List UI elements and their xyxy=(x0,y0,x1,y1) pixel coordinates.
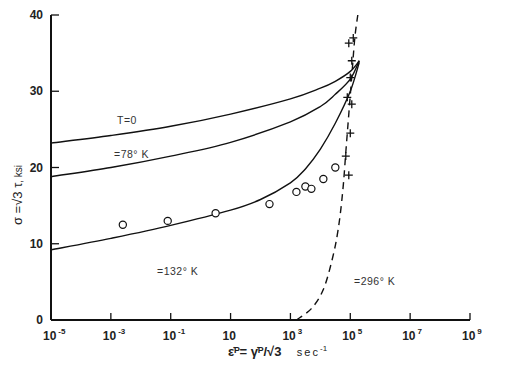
curves xyxy=(51,15,359,320)
x-tick-label: 10-3 xyxy=(103,327,126,343)
plus-marker xyxy=(348,100,356,108)
x-tick-label: 107 xyxy=(402,327,422,343)
y-tick-label: 30 xyxy=(30,84,44,98)
x-tick-label: 10-5 xyxy=(43,327,66,343)
y-tick-label: 0 xyxy=(36,313,43,327)
x-tick-label: 10 xyxy=(223,329,237,343)
y-tick-label: 40 xyxy=(30,8,44,22)
x-tick-label: 109 xyxy=(462,327,482,343)
x-tick-label: 103 xyxy=(282,327,302,343)
y-tick-label: 10 xyxy=(30,237,44,251)
x-axis-title: ε̇ᴾ= γ̇ᴾ/√3 sec-1 xyxy=(228,344,328,359)
curve-t-0 xyxy=(51,61,359,143)
plus-marker xyxy=(349,34,357,42)
y-tick-label: 20 xyxy=(30,161,44,175)
circle-marker xyxy=(293,188,300,195)
circle-marker xyxy=(320,175,327,182)
y-axis-title-unit: , ksi xyxy=(13,165,24,183)
plus-marker xyxy=(345,39,353,47)
circle-marker xyxy=(332,164,339,171)
ticks: 10-510-310-110103105107109010203040 xyxy=(30,8,483,343)
plus-marker xyxy=(348,57,356,65)
curve-label-78k: =78° K xyxy=(114,148,149,160)
y-axis-title: σ =√3 τ, ksi xyxy=(10,165,25,225)
plus-marker xyxy=(345,171,353,179)
stress-strain-rate-chart: 10-510-310-110103105107109010203040 T=0 … xyxy=(0,0,515,369)
x-axis-title-exp: -1 xyxy=(320,344,328,353)
x-tick-label: 10-1 xyxy=(163,327,186,343)
x-axis-title-main: ε̇ᴾ= γ̇ᴾ/√3 xyxy=(228,344,282,359)
circle-marker xyxy=(266,201,273,208)
curve-label-t0: T=0 xyxy=(117,114,137,126)
svg-text:σ =√3 τ, ksi: σ =√3 τ, ksi xyxy=(10,165,25,225)
x-axis-title-unit: sec xyxy=(297,346,320,358)
y-axis-title-main: σ =√3 τ xyxy=(10,182,25,225)
plus-marker xyxy=(342,152,350,160)
circle-marker xyxy=(308,185,315,192)
markers xyxy=(119,34,357,228)
x-tick-label: 105 xyxy=(342,327,362,343)
circle-marker xyxy=(212,210,219,217)
curve-label-296k: =296° K xyxy=(354,275,395,287)
curve-label-132k: =132° K xyxy=(157,265,198,277)
circle-marker xyxy=(119,221,126,228)
circle-marker xyxy=(164,217,171,224)
